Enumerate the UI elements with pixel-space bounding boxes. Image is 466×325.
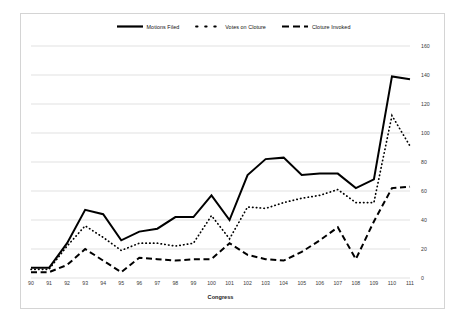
x-axis-tick-label: 92 [64,280,70,286]
gridlines [31,46,410,278]
x-axis-tick-label: 91 [46,280,52,286]
series-line-motions-filed [31,76,410,267]
x-axis-tick-label: 111 [406,280,414,286]
x-axis-tick-label: 105 [297,280,306,286]
x-axis-tick-label: 106 [315,280,324,286]
legend-item-votes-on-cloture[interactable]: Votes on Cloture [195,23,266,30]
dashed-line-swatch-icon [282,23,308,30]
x-axis-tick-label: 94 [100,280,106,286]
series-line-cloture-invoked [31,187,410,273]
series-line-votes-on-cloture [31,116,410,270]
y-axis-tick-label: 100 [421,130,430,136]
x-axis-tick-label: 109 [370,280,379,286]
legend-label-motions-filed: Motions Filed [147,24,180,30]
x-axis-tick-label: 100 [207,280,216,286]
plot-area [31,46,410,278]
x-axis-tick-label: 110 [388,280,396,286]
x-axis-tick-label: 98 [172,280,178,286]
dotted-line-swatch-icon [195,23,221,30]
x-axis-tick-label: 97 [154,280,160,286]
x-axis-tick-label: 103 [261,280,270,286]
legend-item-cloture-invoked[interactable]: Cloture Invoked [282,23,351,30]
y-axis-tick-label: 160 [421,43,430,49]
x-axis-tick-label: 96 [136,280,142,286]
x-axis-tick-label: 108 [352,280,361,286]
y-axis-tick-label: 120 [421,101,430,107]
x-axis-tick-label: 104 [279,280,288,286]
chart-legend: Motions Filed Votes on Cloture Cloture I… [21,23,446,30]
x-axis-tick-label: 95 [118,280,124,286]
y-axis-tick-label: 80 [421,159,427,165]
x-axis-tick-label: 93 [82,280,88,286]
y-axis-tick-label: 0 [421,275,424,281]
x-axis-tick-label: 99 [191,280,197,286]
legend-item-motions-filed[interactable]: Motions Filed [117,23,180,30]
series-canvas [31,46,410,278]
y-axis-tick-label: 60 [421,188,427,194]
x-axis: 9091929394959697989910010110210310410510… [31,280,410,292]
x-axis-tick-label: 102 [243,280,252,286]
y-axis: 020406080100120140160 [413,46,443,278]
x-axis-tick-label: 107 [333,280,342,286]
y-axis-tick-label: 40 [421,217,427,223]
y-axis-tick-label: 20 [421,246,427,252]
legend-label-cloture-invoked: Cloture Invoked [312,24,351,30]
data-series-group [31,76,410,272]
legend-label-votes-on-cloture: Votes on Cloture [225,24,266,30]
chart-container: Motions Filed Votes on Cloture Cloture I… [0,0,466,325]
x-axis-title: Congress [31,294,410,300]
x-axis-tick-label: 101 [225,280,234,286]
solid-line-swatch-icon [117,23,143,30]
x-axis-tick-label: 90 [28,280,34,286]
y-axis-tick-label: 140 [421,72,430,78]
